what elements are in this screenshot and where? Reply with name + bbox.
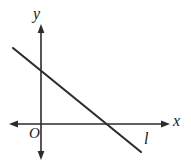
y-axis-up-arrow-icon — [38, 24, 45, 33]
origin-label: O — [29, 126, 40, 141]
x-axis-left-arrow-icon — [9, 121, 18, 128]
coordinate-plane-figure: y x O l — [0, 0, 191, 165]
x-axis-label: x — [173, 113, 180, 129]
x-axis-right-arrow-icon — [161, 121, 170, 128]
line-label: l — [144, 131, 148, 147]
y-axis-label: y — [33, 6, 40, 22]
y-axis-down-arrow-icon — [38, 151, 45, 160]
